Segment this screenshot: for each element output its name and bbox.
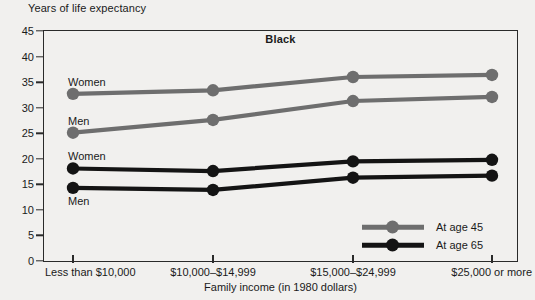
- legend-item: At age 65: [362, 236, 512, 254]
- y-tick-label: 20: [0, 153, 34, 165]
- y-tick-label: 35: [0, 76, 34, 88]
- x-tick-mark: [491, 255, 493, 263]
- y-tick-mark: [36, 235, 44, 236]
- y-tick-mark: [36, 184, 44, 185]
- chart-title: Black: [43, 33, 518, 45]
- y-tick-mark: [36, 107, 44, 108]
- x-tick-label: Less than $10,000: [45, 266, 136, 278]
- x-tick-mark: [212, 255, 214, 263]
- y-axis-tick-labels: 051015202530354045: [0, 0, 38, 300]
- y-tick-label: 45: [0, 25, 34, 37]
- y-tick-mark: [36, 209, 44, 210]
- x-tick-label: $25,000 or more: [451, 266, 532, 278]
- x-tick-label: $15,000–$24,999: [310, 266, 396, 278]
- y-tick-mark: [36, 81, 44, 82]
- series-label-men: Men: [68, 115, 89, 127]
- legend-dot-marker: [386, 239, 399, 252]
- y-tick-mark: [36, 133, 44, 134]
- y-tick-mark: [36, 158, 44, 159]
- chart-canvas: Years of life expectancy Black 051015202…: [0, 0, 535, 300]
- x-tick-mark: [72, 255, 74, 263]
- legend-label: At age 45: [436, 221, 483, 233]
- series-label-women: Women: [68, 150, 106, 162]
- y-tick-mark: [36, 56, 44, 57]
- x-tick-mark: [352, 255, 354, 263]
- chart-legend: At age 45At age 65: [362, 218, 512, 254]
- x-axis-title: Family income (in 1980 dollars): [43, 281, 518, 293]
- y-axis-title: Years of life expectancy: [28, 2, 146, 14]
- series-label-women: Women: [68, 76, 106, 88]
- y-tick-label: 0: [0, 255, 34, 267]
- y-tick-mark: [36, 30, 44, 31]
- y-tick-label: 30: [0, 102, 34, 114]
- y-tick-label: 40: [0, 51, 34, 63]
- legend-label: At age 65: [436, 239, 483, 251]
- series-label-men: Men: [68, 195, 89, 207]
- y-tick-label: 15: [0, 178, 34, 190]
- legend-item: At age 45: [362, 218, 512, 236]
- y-tick-mark: [36, 260, 44, 261]
- y-tick-label: 10: [0, 204, 34, 216]
- legend-dot-marker: [386, 221, 399, 234]
- y-tick-label: 5: [0, 229, 34, 241]
- x-tick-label: $10,000–$14,999: [170, 266, 256, 278]
- y-tick-label: 25: [0, 127, 34, 139]
